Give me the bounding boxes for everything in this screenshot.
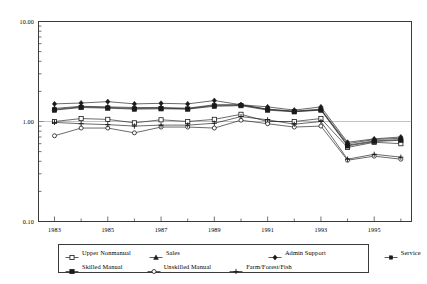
x-tick-label: 1987 bbox=[144, 226, 178, 233]
marker-open-square bbox=[106, 117, 110, 121]
marker-filled-square bbox=[265, 108, 269, 112]
y-tick-label: 10.00 bbox=[0, 18, 34, 25]
marker-filled-square bbox=[52, 108, 56, 112]
series-upper-nonmanual bbox=[52, 112, 403, 149]
legend-entry: Service bbox=[384, 248, 421, 257]
marker-filled-square-small bbox=[389, 255, 392, 258]
x-tick-label: 1991 bbox=[251, 226, 285, 233]
legend-marker-filled-square-icon bbox=[65, 262, 79, 271]
legend-label: Upper Nonmanual bbox=[82, 248, 131, 257]
legend-label: Service bbox=[401, 248, 421, 257]
legend-label: Sales bbox=[166, 248, 180, 257]
marker-filled-square bbox=[345, 144, 349, 148]
y-tick-label: 1.00 bbox=[0, 118, 34, 125]
series-line bbox=[54, 105, 400, 145]
series-service bbox=[53, 103, 403, 146]
legend-marker-filled-triangle-icon bbox=[149, 248, 163, 257]
legend-marker-open-square-icon bbox=[65, 248, 79, 257]
x-tick-label: 1989 bbox=[197, 226, 231, 233]
marker-filled-square bbox=[70, 269, 74, 273]
legend-marker-filled-diamond-icon bbox=[268, 248, 282, 257]
chart-plot-area: 10.001.000.10 19831985198719891991199319… bbox=[0, 0, 427, 240]
legend-entry: Farm/Forest/Fish bbox=[229, 262, 292, 271]
marker-filled-square bbox=[239, 103, 243, 107]
legend-row: Upper NonmanualSalesAdmin SupportService bbox=[59, 245, 368, 259]
marker-filled-square bbox=[212, 104, 216, 108]
legend-marker-open-circle-icon bbox=[147, 262, 161, 271]
marker-open-circle bbox=[79, 126, 83, 130]
marker-open-square bbox=[159, 118, 163, 122]
legend-row: Skilled ManualUnskilled ManualFarm/Fores… bbox=[59, 259, 368, 273]
series-line bbox=[54, 106, 400, 146]
x-tick-label: 1993 bbox=[304, 226, 338, 233]
legend-marker-svg bbox=[149, 253, 163, 262]
marker-open-circle bbox=[132, 131, 136, 135]
legend-label: Skilled Manual bbox=[82, 262, 123, 271]
y-tick-label: 0.10 bbox=[0, 218, 34, 225]
x-tick-label: 1995 bbox=[357, 226, 391, 233]
x-tick-label: 1983 bbox=[37, 226, 71, 233]
legend-marker-svg bbox=[268, 253, 282, 262]
marker-filled-square bbox=[159, 107, 163, 111]
marker-filled-square bbox=[319, 108, 323, 112]
marker-filled-square bbox=[186, 107, 190, 111]
marker-filled-diamond bbox=[159, 101, 163, 106]
marker-filled-square bbox=[372, 139, 376, 143]
legend-marker-filled-square-small-icon bbox=[384, 248, 398, 257]
marker-filled-diamond bbox=[186, 101, 190, 106]
marker-filled-diamond bbox=[132, 101, 136, 106]
marker-open-circle bbox=[52, 134, 56, 138]
marker-open-circle bbox=[319, 124, 323, 128]
marker-filled-square bbox=[399, 138, 403, 142]
legend-label: Farm/Forest/Fish bbox=[246, 262, 292, 271]
marker-filled-triangle bbox=[153, 254, 158, 259]
legend-label: Unskilled Manual bbox=[164, 262, 212, 271]
marker-filled-diamond bbox=[212, 98, 216, 103]
legend-entry: Upper Nonmanual bbox=[65, 248, 131, 257]
marker-filled-square bbox=[132, 107, 136, 111]
marker-filled-square bbox=[292, 110, 296, 114]
x-tick-label: 1985 bbox=[91, 226, 125, 233]
marker-open-square bbox=[70, 255, 74, 259]
chart-legend: Upper NonmanualSalesAdmin SupportService… bbox=[58, 244, 369, 273]
series-farm-forest-fish bbox=[52, 114, 404, 162]
legend-entry: Unskilled Manual bbox=[147, 262, 212, 271]
chart-screenshot: 10.001.000.10 19831985198719891991199319… bbox=[0, 0, 427, 284]
chart-svg bbox=[0, 0, 427, 240]
legend-marker-svg bbox=[65, 253, 79, 262]
legend-label: Admin Support bbox=[285, 248, 326, 257]
marker-filled-diamond bbox=[79, 100, 83, 105]
marker-open-circle bbox=[212, 126, 216, 130]
marker-open-circle bbox=[152, 269, 156, 273]
series-skilled-manual bbox=[52, 103, 403, 148]
legend-entry: Skilled Manual bbox=[65, 262, 123, 271]
marker-filled-diamond bbox=[106, 99, 110, 104]
legend-marker-svg bbox=[384, 253, 398, 262]
series-line bbox=[54, 117, 400, 160]
legend-entry: Admin Support bbox=[268, 248, 326, 257]
legend-marker-svg bbox=[147, 267, 161, 276]
marker-filled-diamond bbox=[273, 254, 277, 259]
legend-entry: Sales bbox=[149, 248, 180, 257]
legend-marker-svg bbox=[65, 267, 79, 276]
legend-marker-plus-icon bbox=[229, 262, 243, 271]
marker-open-square bbox=[79, 116, 83, 120]
marker-filled-diamond bbox=[52, 101, 56, 106]
legend-marker-svg bbox=[229, 267, 243, 276]
marker-filled-square bbox=[79, 105, 83, 109]
marker-filled-square bbox=[106, 106, 110, 110]
